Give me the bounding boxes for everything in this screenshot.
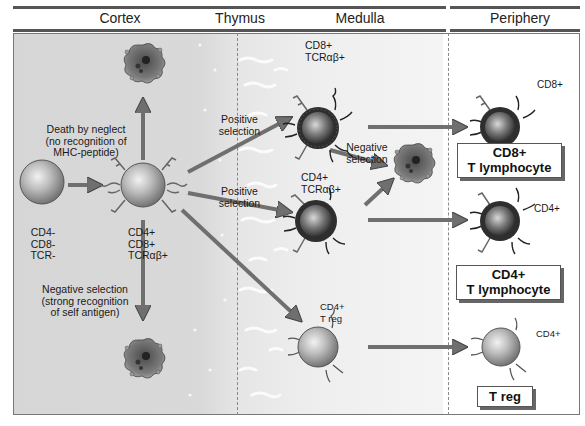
positive-selection-top-label: Positive selection <box>212 114 267 137</box>
medulla-cd8-label: CD8+ TCRαβ+ <box>305 40 345 63</box>
arrow-treg <box>182 210 300 320</box>
medulla-cd4-label: CD4+ TCRαβ+ <box>301 172 341 195</box>
medulla-cd4-cell <box>283 188 345 254</box>
dying-cell-medulla <box>394 144 435 184</box>
medulla-texture <box>240 58 287 397</box>
negative-selection-cortex-label: Negative selection (strong recognition o… <box>32 284 138 319</box>
periphery-cd4-cell <box>470 188 535 254</box>
periphery-cd4-label: CD4+ <box>534 203 560 215</box>
double-negative-label: CD4- CD8- TCR- <box>22 227 64 262</box>
periphery-treg-label: CD4+ <box>536 328 561 340</box>
periphery-treg-cell <box>471 318 526 380</box>
positive-selection-mid-label: Positive selection <box>212 186 267 209</box>
arrow-cd4-negative-selection <box>365 180 392 205</box>
negative-selection-medulla-label: Negative selection <box>341 142 393 165</box>
dying-cell-top <box>124 44 165 84</box>
medulla-treg-label: CD4+ T reg <box>320 301 345 324</box>
dying-cell-bottom <box>124 339 165 379</box>
treg-box: T reg <box>477 386 533 407</box>
death-by-neglect-label: Death by neglect (no recognition of MHC-… <box>36 124 136 159</box>
diagram-artwork <box>0 0 585 426</box>
double-negative-cell <box>20 160 64 204</box>
cd8-t-lymphocyte-box: CD8+ T lymphocyte <box>457 143 562 178</box>
cd4-t-lymphocyte-box: CD4+ T lymphocyte <box>456 265 561 300</box>
periphery-cd8-label: CD8+ <box>537 79 563 91</box>
double-positive-label: CD4+ CD8+ TCRαβ+ <box>128 227 168 262</box>
